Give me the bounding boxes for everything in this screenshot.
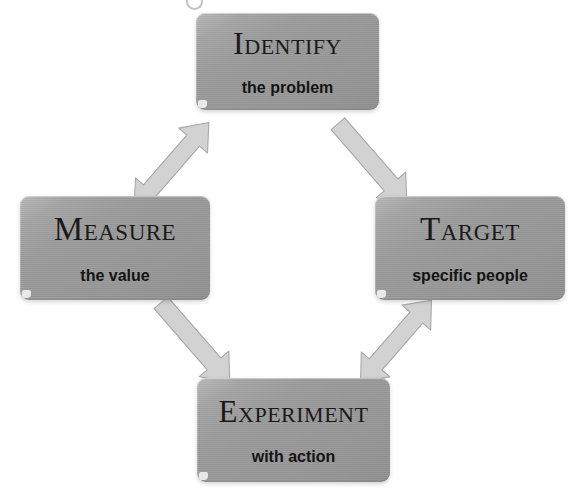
node-target-title: Target: [420, 213, 520, 246]
node-measure-title: Measure: [54, 213, 176, 246]
node-identify-title: Identify: [233, 27, 342, 59]
node-measure-subtitle: the value: [80, 268, 149, 284]
node-identify-subtitle: the problem: [242, 80, 334, 96]
node-experiment[interactable]: Experiment with action: [197, 378, 390, 482]
node-identify[interactable]: Identify the problem: [196, 13, 379, 110]
node-target[interactable]: Target specific people: [375, 196, 565, 300]
node-experiment-subtitle: with action: [252, 449, 336, 465]
node-target-subtitle: specific people: [412, 268, 528, 284]
scan-artifact: [186, 0, 203, 10]
diagram-canvas: Identify the problem Measure the value T…: [0, 0, 571, 493]
node-experiment-title: Experiment: [219, 396, 369, 427]
node-measure[interactable]: Measure the value: [20, 196, 210, 300]
